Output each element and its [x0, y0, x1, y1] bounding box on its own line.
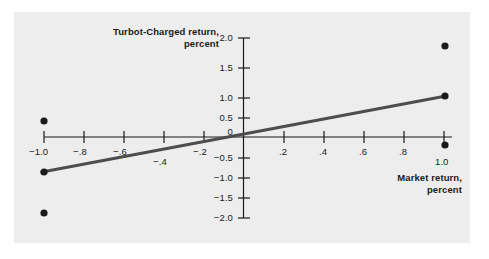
x-tick-label: −.4	[153, 156, 167, 167]
x-tick-label: .8	[399, 146, 407, 157]
y-axis-title-line1: Turbot-Charged return,	[84, 26, 219, 38]
y-tick-label: 1.5	[200, 62, 233, 73]
y-tick-label: −2.0	[200, 212, 233, 223]
y-tick-label: −0.5	[200, 152, 233, 163]
scatter-plot	[0, 0, 489, 259]
y-tick-label: 1.0	[200, 92, 233, 103]
y-axis-title: Turbot-Charged return, percent	[84, 26, 219, 50]
y-tick-label: 0	[200, 126, 233, 137]
chart-figure: Turbot-Charged return, percent Market re…	[0, 0, 489, 259]
y-tick-label: −1.5	[200, 192, 233, 203]
x-tick-label: .4	[319, 146, 327, 157]
x-axis-title: Market return, percent	[330, 172, 462, 196]
data-point	[441, 42, 448, 49]
x-tick-label: −1.0	[29, 146, 48, 157]
x-axis-title-line2: percent	[330, 184, 462, 196]
x-tick-label: −.8	[73, 146, 87, 157]
y-axis-title-line2: percent	[84, 38, 219, 50]
y-tick-label: 2.0	[200, 32, 233, 43]
data-point	[441, 92, 448, 99]
y-tick-label: −1.0	[200, 172, 233, 183]
x-tick-label: −.6	[113, 146, 127, 157]
x-axis-title-line1: Market return,	[330, 172, 462, 184]
data-point	[40, 209, 47, 216]
data-point	[40, 168, 47, 175]
data-point	[40, 117, 47, 124]
x-tick-label: .6	[359, 146, 367, 157]
x-tick-label: 1.0	[435, 156, 449, 167]
data-point	[441, 141, 448, 148]
x-tick-label: .2	[279, 146, 287, 157]
y-tick-label: 0.5	[200, 112, 233, 123]
